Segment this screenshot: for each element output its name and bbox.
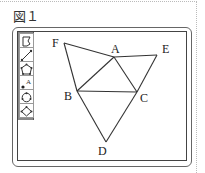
segment-EC: [137, 55, 157, 92]
segment-FA: [64, 43, 114, 57]
point-label-E: E: [162, 42, 169, 56]
geometry-diagram: F A E B C D: [0, 0, 205, 173]
point-label-A: A: [111, 42, 120, 56]
point-label-B: B: [64, 89, 72, 103]
segment-AE: [114, 55, 157, 57]
segment-CD: [106, 92, 137, 142]
point-label-F: F: [52, 36, 59, 50]
segment-AC: [114, 57, 137, 92]
segment-AB: [77, 57, 114, 91]
segment-BC: [77, 91, 137, 92]
segment-FB: [64, 43, 77, 91]
segment-BD: [77, 91, 106, 142]
point-label-D: D: [98, 144, 107, 158]
point-label-C: C: [140, 91, 148, 105]
